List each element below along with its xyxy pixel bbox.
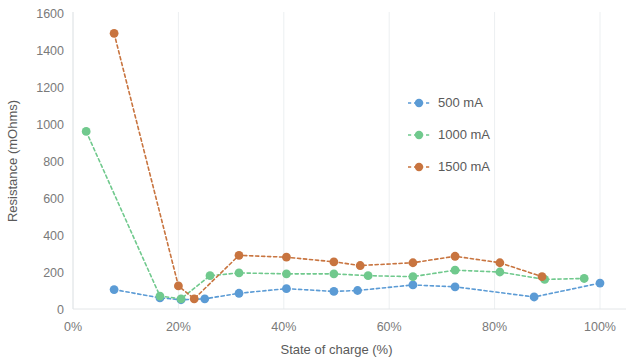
data-point-marker (200, 294, 209, 303)
series-1000-ma (82, 127, 589, 303)
data-point-marker (329, 257, 338, 266)
data-point-marker (174, 281, 183, 290)
x-tick-label: 40% (271, 320, 296, 334)
x-tick-label: 100% (584, 320, 616, 334)
data-point-marker (451, 252, 460, 261)
data-point-marker (206, 271, 215, 280)
data-point-marker (282, 253, 291, 262)
x-axis-tick-labels: 0%20%40%60%80%100% (64, 320, 616, 334)
y-axis-title: Resistance (mOhms) (5, 100, 20, 222)
data-point-marker (329, 287, 338, 296)
data-point-marker (409, 258, 418, 267)
legend-item-1500-ma[interactable]: 1500 mA (408, 159, 490, 174)
data-point-marker (156, 292, 165, 301)
x-tick-label: 20% (166, 320, 191, 334)
data-point-marker (110, 29, 119, 38)
y-tick-label: 1000 (36, 118, 64, 132)
data-series-group (82, 29, 605, 304)
legend-label: 1000 mA (438, 127, 490, 142)
data-point-marker (282, 284, 291, 293)
y-tick-label: 1600 (36, 7, 64, 21)
data-point-marker (596, 279, 605, 288)
x-axis-title: State of charge (%) (281, 342, 393, 357)
x-tick-label: 0% (64, 320, 82, 334)
y-tick-label: 800 (43, 155, 64, 169)
y-tick-label: 1400 (36, 44, 64, 58)
data-point-marker (282, 269, 291, 278)
legend-marker-swatch (415, 99, 423, 107)
data-point-marker (451, 282, 460, 291)
data-point-marker (110, 285, 119, 294)
data-point-marker (235, 251, 244, 260)
legend-marker-swatch (415, 131, 423, 139)
data-point-marker (364, 271, 373, 280)
legend-item-1000-ma[interactable]: 1000 mA (408, 127, 490, 142)
x-tick-label: 80% (482, 320, 507, 334)
data-point-marker (329, 269, 338, 278)
y-tick-label: 600 (43, 192, 64, 206)
legend-label: 1500 mA (438, 159, 490, 174)
x-tick-label: 60% (377, 320, 402, 334)
y-tick-label: 0 (57, 303, 64, 317)
y-tick-label: 400 (43, 229, 64, 243)
chart-legend: 500 mA1000 mA1500 mA (408, 95, 490, 174)
data-point-marker (235, 269, 244, 278)
data-point-marker (235, 289, 244, 298)
data-point-marker (409, 272, 418, 281)
y-tick-label: 1200 (36, 81, 64, 95)
axes-group (73, 12, 626, 309)
data-point-marker (82, 127, 91, 136)
data-point-marker (409, 281, 418, 290)
legend-marker-swatch (415, 163, 423, 171)
data-point-marker (353, 286, 362, 295)
y-axis-tick-labels: 02004006008001000120014001600 (36, 7, 64, 317)
resistance-vs-soc-chart: 02004006008001000120014001600 0%20%40%60… (0, 0, 626, 362)
data-point-marker (177, 294, 186, 303)
chart-container: 02004006008001000120014001600 0%20%40%60… (0, 0, 626, 362)
data-point-marker (538, 272, 547, 281)
data-point-marker (530, 293, 539, 302)
legend-label: 500 mA (438, 95, 483, 110)
legend-item-500-ma[interactable]: 500 mA (408, 95, 483, 110)
data-point-marker (356, 261, 365, 270)
data-point-marker (190, 294, 199, 303)
data-point-marker (495, 258, 504, 267)
data-point-marker (580, 274, 589, 283)
y-tick-label: 200 (43, 266, 64, 280)
data-point-marker (451, 266, 460, 275)
data-point-marker (495, 268, 504, 277)
